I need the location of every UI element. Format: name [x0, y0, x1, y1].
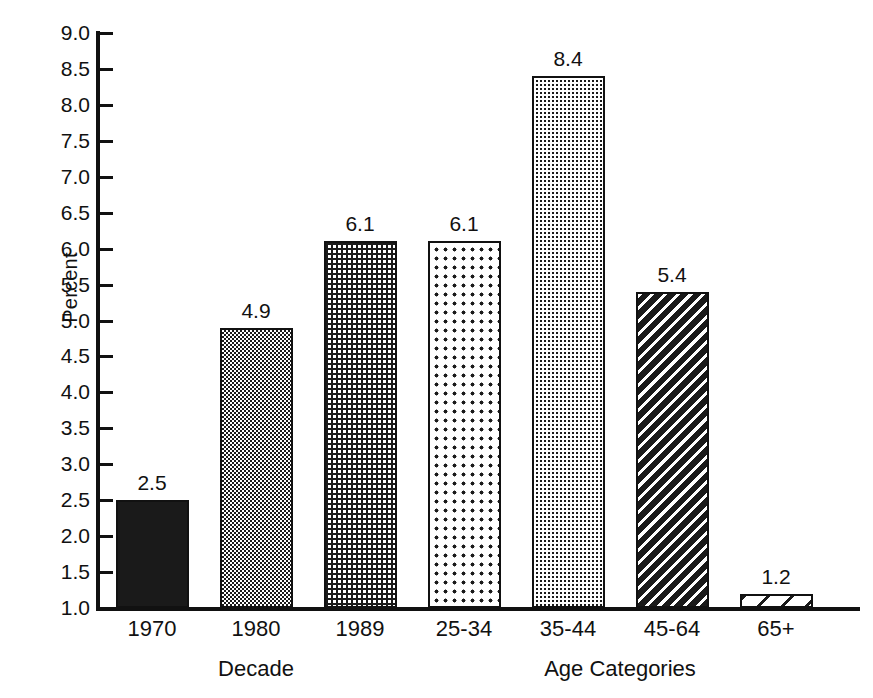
group-label-age-categories: Age Categories	[480, 657, 760, 681]
bar-value-label: 5.4	[622, 264, 722, 285]
y-axis-tick-label: 9.0	[28, 22, 90, 43]
y-axis-tick-label: 7.0	[28, 166, 90, 187]
bar-value-label: 6.1	[414, 213, 514, 234]
bar-value-label: 8.4	[518, 48, 618, 69]
x-axis-label-45-64: 45-64	[612, 617, 732, 641]
group-label-decade: Decade	[116, 657, 396, 681]
bar-1980	[220, 328, 293, 608]
y-axis-tick-label: 4.5	[28, 345, 90, 366]
x-axis-label-25-34: 25-34	[404, 617, 524, 641]
bar-value-label: 4.9	[206, 300, 306, 321]
y-axis-tick-label: 7.5	[28, 130, 90, 151]
x-axis-label-1989: 1989	[300, 617, 420, 641]
y-axis-tick	[100, 463, 113, 466]
y-axis-tick-label: 5.5	[28, 274, 90, 295]
y-axis-tick	[100, 535, 113, 538]
x-axis-label-1970: 1970	[92, 617, 212, 641]
y-axis-tick-label: 8.5	[28, 58, 90, 79]
bar-chart-figure: Percent 9.08.58.07.57.06.56.05.55.04.54.…	[0, 0, 873, 698]
y-axis-tick-label: 3.5	[28, 417, 90, 438]
y-axis-tick-label: 5.0	[28, 310, 90, 331]
y-axis-tick	[100, 140, 113, 143]
y-axis-tick	[100, 355, 113, 358]
x-axis-label-35-44: 35-44	[508, 617, 628, 641]
y-axis-tick	[100, 571, 113, 574]
bar-value-label: 2.5	[102, 472, 202, 493]
y-axis-tick-label: 1.0	[28, 597, 90, 618]
bar-1970	[116, 500, 189, 608]
y-axis-tick-label: 2.5	[28, 489, 90, 510]
bar-35-44	[532, 76, 605, 608]
bar-value-label: 1.2	[726, 566, 826, 587]
y-axis-tick	[100, 607, 113, 610]
y-axis-tick-label: 6.5	[28, 202, 90, 223]
y-axis-tick-label: 1.5	[28, 561, 90, 582]
bar-25-34	[428, 241, 501, 608]
plot-area: 9.08.58.07.57.06.56.05.55.04.54.03.53.02…	[0, 0, 873, 698]
y-axis-tick	[100, 499, 113, 502]
y-axis-tick	[100, 212, 113, 215]
y-axis-tick-label: 8.0	[28, 94, 90, 115]
y-axis-tick-label: 3.0	[28, 453, 90, 474]
bar-value-label: 6.1	[310, 213, 410, 234]
y-axis-tick	[100, 427, 113, 430]
y-axis-tick	[100, 320, 113, 323]
y-axis-tick	[100, 284, 113, 287]
x-axis-label-1980: 1980	[196, 617, 316, 641]
y-axis-tick	[100, 32, 113, 35]
y-axis-tick	[100, 176, 113, 179]
y-axis-tick	[100, 104, 113, 107]
y-axis-tick	[100, 248, 113, 251]
y-axis-tick-label: 2.0	[28, 525, 90, 546]
y-axis-tick	[100, 391, 113, 394]
x-axis-label-65+: 65+	[716, 617, 836, 641]
bar-1989	[324, 241, 397, 608]
bar-45-64	[636, 292, 709, 608]
bar-65+	[740, 594, 813, 608]
y-axis-tick-label: 6.0	[28, 238, 90, 259]
y-axis-tick-label: 4.0	[28, 381, 90, 402]
y-axis-tick	[100, 68, 113, 71]
